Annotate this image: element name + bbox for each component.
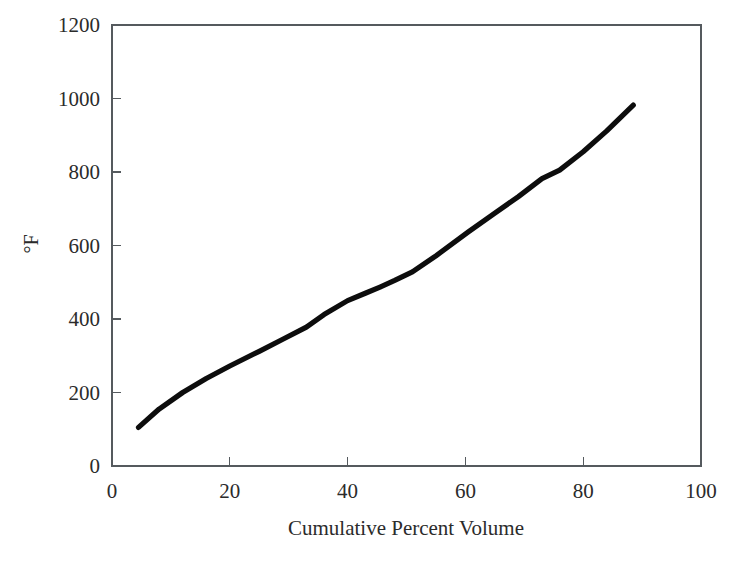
x-axis-tick-labels: 020406080100 (107, 479, 717, 503)
y-axis-tick-labels: 020040060080010001200 (58, 13, 100, 478)
plot-background (112, 25, 701, 466)
x-tick-label-40: 40 (337, 479, 358, 503)
y-axis-title: °F (20, 234, 42, 253)
y-tick-label-400: 400 (69, 307, 101, 331)
y-tick-label-600: 600 (69, 234, 101, 258)
x-axis-title: Cumulative Percent Volume (288, 516, 524, 540)
x-tick-label-80: 80 (573, 479, 594, 503)
chart-figure: 020406080100 020040060080010001200 Cumul… (0, 0, 742, 564)
y-tick-label-1200: 1200 (58, 13, 100, 37)
y-tick-label-0: 0 (90, 454, 101, 478)
x-tick-label-60: 60 (455, 479, 476, 503)
y-tick-label-800: 800 (69, 160, 101, 184)
x-tick-label-0: 0 (107, 479, 118, 503)
x-tick-label-20: 20 (219, 479, 240, 503)
y-tick-label-1000: 1000 (58, 87, 100, 111)
distillation-line-chart: 020406080100 020040060080010001200 Cumul… (0, 0, 742, 564)
y-tick-label-200: 200 (69, 381, 101, 405)
x-tick-label-100: 100 (685, 479, 717, 503)
